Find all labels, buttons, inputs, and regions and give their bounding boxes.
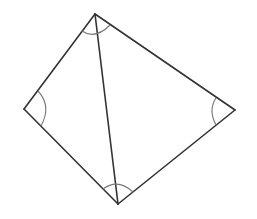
quadrilateral-diagram xyxy=(0,0,257,219)
diagonal-top-bottom xyxy=(95,14,118,204)
angle-marks xyxy=(38,25,216,192)
edges xyxy=(24,14,235,204)
edge-bottom-right xyxy=(118,110,235,204)
angle-arc-right xyxy=(212,98,216,125)
angle-arc-bottom xyxy=(103,184,133,192)
edge-top-left xyxy=(24,14,95,109)
angle-arc-left xyxy=(38,91,46,126)
edge-left-bottom xyxy=(24,109,118,204)
edge-right-top xyxy=(95,14,235,110)
